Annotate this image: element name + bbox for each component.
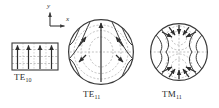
mode-label-tm11: TM11 — [162, 90, 182, 99]
y-axis-label: y — [47, 3, 50, 10]
panel-tm11 — [150, 23, 208, 81]
mode-label-tm11-subscript: 11 — [176, 94, 182, 100]
mode-label-te11-subscript: 11 — [94, 94, 100, 100]
x-axis-label: x — [66, 16, 69, 23]
mode-label-te11-text: TE — [83, 89, 94, 99]
mode-label-te11: TE11 — [83, 90, 100, 99]
mode-label-te10: TE10 — [14, 73, 31, 82]
panel-te10 — [12, 43, 58, 70]
mode-label-tm11-text: TM — [162, 89, 176, 99]
waveguide-mode-figure: y x TE10 TE11 TM11 — [0, 0, 219, 108]
panel-te11 — [66, 20, 136, 85]
mode-label-te10-subscript: 10 — [25, 77, 31, 83]
figure-canvas — [0, 0, 219, 108]
coordinate-axes-indicator — [50, 13, 65, 27]
te10-e-field-arrows — [18, 45, 52, 69]
mode-label-te10-text: TE — [14, 72, 25, 82]
